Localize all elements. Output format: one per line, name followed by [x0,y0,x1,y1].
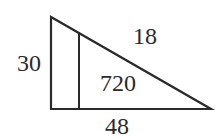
bottom-side-label: 48 [105,114,129,138]
top-region-label: 18 [133,24,157,48]
triangle-diagram: 30 18 720 48 [0,0,222,138]
area-label: 720 [100,71,136,95]
left-side-label: 30 [17,51,41,75]
